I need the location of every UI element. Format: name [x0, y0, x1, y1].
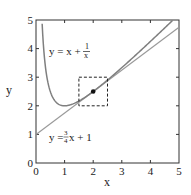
- x-tick: 0: [33, 165, 39, 177]
- y-axis-label: y: [6, 83, 12, 97]
- y-tick: 4: [28, 42, 34, 54]
- line-equation-label: y = 3 4 x + 1: [49, 129, 92, 145]
- svg-text:y =: y =: [49, 131, 63, 143]
- x-tick: 1: [62, 165, 68, 177]
- chart: 0 1 2 3 4 5 0 1 2 3 4 5 x y y = x + 1 x …: [0, 0, 191, 195]
- y-tick: 5: [28, 14, 34, 26]
- svg-text:4: 4: [64, 137, 68, 145]
- y-tick: 1: [28, 128, 34, 140]
- svg-text:3: 3: [64, 129, 68, 137]
- x-tick: 5: [176, 165, 182, 177]
- svg-text:x: x: [84, 51, 88, 60]
- y-tick: 2: [28, 100, 34, 112]
- svg-text:x + 1: x + 1: [69, 131, 92, 143]
- tangent-point: [91, 89, 96, 94]
- x-tick: 3: [119, 165, 125, 177]
- x-tick: 2: [90, 165, 96, 177]
- curve-equation-label: y = x + 1 x: [49, 42, 90, 60]
- y-tick: 3: [28, 71, 34, 83]
- x-tick: 4: [148, 165, 154, 177]
- y-tick-labels: 0 1 2 3 4 5: [28, 14, 34, 169]
- curve-x-plus-inverse-x: [42, 20, 172, 105]
- svg-text:1: 1: [85, 42, 89, 51]
- svg-text:y = x +: y = x +: [49, 45, 81, 57]
- y-tick: 0: [28, 157, 34, 169]
- x-axis-label: x: [104, 175, 110, 189]
